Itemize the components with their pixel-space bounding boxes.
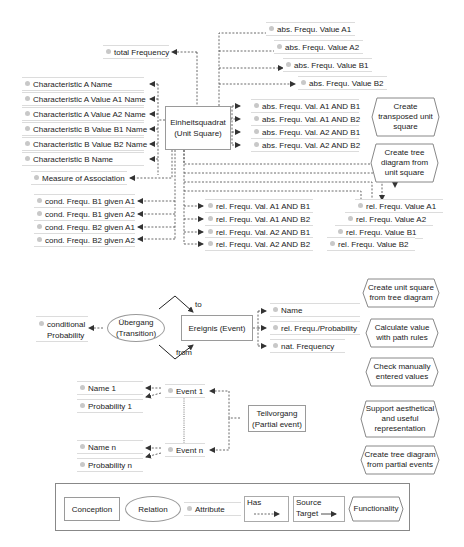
functionality-label: representation [374,424,425,434]
functionality-label: Support aesthetical [366,404,435,414]
attribute-dot-icon [208,203,213,208]
event-attribute[interactable]: nat. Frequency [270,339,345,353]
eventn-name-attribute[interactable]: Name n [77,440,143,454]
characteristic-attribute[interactable]: Characteristic B Name [22,152,144,166]
conditional-frequency-attribute[interactable]: cond. Frequ. B2 given A1 [34,220,135,234]
attribute-label: abs. Frequ. Value A1 [277,25,351,34]
dashed-arrow-icon [245,497,290,523]
abs-joint-frequency-attribute[interactable]: abs. Frequ. Val. A1 AND B1 [251,99,359,113]
abs-frequency-attribute[interactable]: abs. Frequ. Value A2 [274,40,363,54]
attribute-dot-icon [25,81,30,86]
legend-has: Has [244,496,289,522]
event-concept[interactable]: Ereignis (Event) [181,315,253,341]
abs-frequency-attribute[interactable]: abs. Frequ. Value B2 [298,76,387,90]
conditional-frequency-attribute[interactable]: cond. Frequ. B1 given A1 [34,194,135,208]
attribute-dot-icon [273,325,278,330]
conditional-probability-attribute[interactable]: conditionalProbability [36,316,88,342]
event-attribute[interactable]: rel. Frequ./Probability [270,321,360,335]
attribute-dot-icon [286,62,291,67]
rel-frequency-attribute[interactable]: rel. Frequ. Value B2 [327,237,415,251]
attribute-dot-icon [254,142,259,147]
attribute-label: Event n [176,446,203,455]
attribute-label: rel. Frequ. Value A2 [356,215,426,224]
functionality-create-tree-from-partial-events[interactable]: Create tree diagramfrom partial events [360,445,440,475]
abs-joint-frequency-attribute[interactable]: abs. Frequ. Val. A2 AND B1 [251,125,359,139]
rel-joint-frequency-attribute[interactable]: rel. Frequ. Val. A1 AND B1 [205,199,313,213]
rel-frequency-attribute[interactable]: rel. Frequ. Value A1 [355,199,443,213]
attribute-dot-icon [254,116,259,121]
attribute-dot-icon [25,111,30,116]
attribute-label: rel. Frequ./Probability [281,324,357,333]
legend-relation: Relation [125,496,181,522]
rel-frequency-attribute[interactable]: rel. Frequ. Value A2 [345,212,433,226]
attribute-dot-icon [168,388,173,393]
solid-arrow-icon [294,497,346,523]
unit-square-title: Einheitsquadrat [170,117,226,128]
attribute-label: abs. Frequ. Val. A2 AND B1 [262,128,360,137]
attribute-dot-icon [80,385,85,390]
functionality-support-representation[interactable]: Support aestheticaland usefulrepresentat… [360,400,440,438]
attribute-label: rel. Frequ. Value B2 [338,240,409,249]
rel-joint-frequency-attribute[interactable]: rel. Frequ. Val. A1 AND B2 [205,212,313,226]
attribute-label: Characteristic B Value B2 Name [33,140,147,149]
event-attribute[interactable]: Name [270,303,360,317]
attribute-dot-icon [168,447,173,452]
attribute-dot-icon [37,224,42,229]
legend: Conception Relation Attribute Has Source… [55,483,410,531]
characteristic-attribute[interactable]: Characteristic A Value A1 Name [22,92,144,106]
event-label: Ereignis (Event) [189,323,246,334]
attribute-dot-icon [254,103,259,108]
functionality-label: and useful [382,414,419,424]
attribute-dot-icon [187,506,192,511]
attribute-label: rel. Frequ. Val. A1 AND B1 [216,202,310,211]
attribute-dot-icon [254,129,259,134]
characteristic-attribute[interactable]: Characteristic A Value A2 Name [22,107,144,121]
conditional-frequency-attribute[interactable]: cond. Frequ. B1 given A2 [34,207,135,221]
partial-event-title: Teilvorgang [257,408,298,419]
abs-frequency-attribute[interactable]: abs. Frequ. Value A1 [266,22,355,36]
attribute-label: total Frequency [114,48,169,57]
functionality-create-unit-square-from-tree[interactable]: Create unit squarefrom tree diagram [362,278,440,308]
abs-joint-frequency-attribute[interactable]: abs. Frequ. Val. A2 AND B2 [251,138,359,152]
attribute-dot-icon [25,156,30,161]
eventn-probability-attribute[interactable]: Probability n [77,458,143,472]
functionality-label: Create tree diagram [364,450,435,460]
partial-event-subtitle: (Partial event) [252,419,302,430]
attribute-label: Characteristic B Value B1 Name [33,125,147,134]
event1-probability-attribute[interactable]: Probability 1 [77,399,143,413]
abs-joint-frequency-attribute[interactable]: abs. Frequ. Val. A1 AND B2 [251,112,359,126]
attribute-label: Characteristic A Name [33,80,112,89]
event1-name-attribute[interactable]: Name 1 [77,381,143,395]
functionality-create-transposed-unit-square[interactable]: Createtransposed unitsquare [371,97,440,137]
functionality-check-entered-values[interactable]: Check manuallyentered values [365,357,439,387]
characteristic-attribute[interactable]: Characteristic B Value B2 Name [22,137,144,151]
partial-event-concept[interactable]: Teilvorgang (Partial event) [248,405,306,432]
attribute-label: Name n [88,443,116,452]
characteristic-attribute[interactable]: Characteristic A Name [22,77,144,91]
rel-joint-frequency-attribute[interactable]: rel. Frequ. Val. A2 AND B2 [205,237,313,251]
attribute-label: abs. Frequ. Val. A2 AND B2 [262,141,360,150]
attribute-label: Probability [39,331,84,340]
attribute-dot-icon [277,44,282,49]
relation-label: (Transition) [116,328,156,339]
functionality-calculate-path-rules[interactable]: Calculate valuewith path rules [365,318,439,348]
functionality-create-tree-from-unit-square[interactable]: Create treediagram fromunit square [370,143,439,183]
attribute-dot-icon [273,307,278,312]
event1-attribute[interactable]: Event 1 [165,384,205,398]
attribute-dot-icon [37,198,42,203]
total-frequency-attribute[interactable]: total Frequency [103,45,169,59]
legend-functionality: Functionality [348,496,404,522]
conditional-frequency-attribute[interactable]: cond. Frequ. B2 given A2 [34,233,135,247]
legend-label: Conception [72,504,112,515]
attribute-dot-icon [37,211,42,216]
abs-frequency-attribute[interactable]: abs. Frequ. Value B1 [283,58,372,72]
attribute-label: cond. Frequ. B1 given A1 [45,197,135,206]
transition-relation[interactable]: Übergang (Transition) [107,314,165,342]
eventn-attribute[interactable]: Event n [165,443,205,457]
unit-square-concept[interactable]: Einheitsquadrat (Unit Square) [165,106,231,150]
attribute-dot-icon [80,403,85,408]
attribute-label: abs. Frequ. Value B2 [309,79,384,88]
measure-of-association-attribute[interactable]: Measure of Association [31,171,127,185]
functionality-label: transposed unit [378,112,433,122]
characteristic-attribute[interactable]: Characteristic B Value B1 Name [22,122,144,136]
